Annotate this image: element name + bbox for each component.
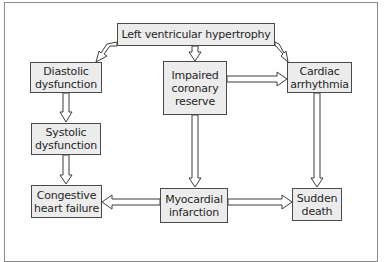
node-label-line: Congestive — [37, 189, 97, 202]
arrow-lvh-to-impaired — [189, 46, 201, 61]
node-label-line: dysfunction — [35, 78, 97, 91]
arrow-lvh-to-arrhythmia — [275, 42, 288, 62]
arrow-mi-to-sudden — [228, 195, 292, 209]
arrow-arrhythmia-to-sudden — [311, 93, 323, 187]
node-label-line: infarction — [169, 206, 219, 219]
node-label-line: Sudden — [297, 192, 337, 205]
node-label-line: Impaired — [171, 69, 218, 82]
node-cardiac-arrhythmia: Cardiac arrhythmia — [287, 62, 352, 93]
node-label-line: Systolic — [46, 126, 87, 139]
node-congestive-heart-failure: Congestive heart failure — [31, 185, 102, 218]
node-label-line: dysfunction — [35, 139, 97, 152]
node-label-line: Left ventricular hypertrophy — [121, 28, 270, 41]
node-label-line: reserve — [175, 95, 215, 108]
arrow-systolic-to-chf — [60, 155, 72, 184]
arrow-impaired-to-arrhythmia — [227, 72, 287, 86]
node-systolic-dysfunction: Systolic dysfunction — [31, 123, 101, 155]
arrow-diastolic-to-systolic — [60, 93, 72, 122]
node-diastolic-dysfunction: Diastolic dysfunction — [30, 62, 102, 93]
arrow-mi-to-chf — [102, 195, 160, 209]
node-impaired-coronary-reserve: Impaired coronary reserve — [163, 61, 227, 115]
node-label-line: Diastolic — [43, 65, 88, 78]
node-left-ventricular-hypertrophy: Left ventricular hypertrophy — [117, 23, 275, 46]
node-label-line: Cardiac — [299, 65, 339, 78]
node-label-line: arrhythmia — [290, 78, 349, 91]
arrow-lvh-to-diastolic — [96, 42, 117, 62]
arrow-impaired-to-mi — [189, 115, 201, 187]
node-label-line: coronary — [172, 82, 219, 95]
node-label-line: heart failure — [34, 202, 99, 215]
node-sudden-death: Sudden death — [292, 188, 342, 221]
node-label-line: death — [302, 205, 333, 218]
node-myocardial-infarction: Myocardial infarction — [160, 188, 228, 223]
node-label-line: Myocardial — [165, 193, 223, 206]
